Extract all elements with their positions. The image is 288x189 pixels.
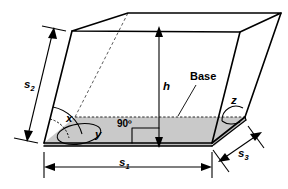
angle-z-label: z xyxy=(230,94,237,106)
angle-x-label: x xyxy=(65,112,73,124)
s1-arrow-right xyxy=(201,163,212,171)
angle-y-label: y xyxy=(94,128,102,140)
s3-arrow-left xyxy=(218,153,230,162)
base-callout: Base xyxy=(178,70,216,116)
s2-tick-bottom xyxy=(14,138,38,143)
hidden-edges xyxy=(75,13,245,117)
s2-label: s2 xyxy=(24,78,35,93)
s1-dimension: s1 xyxy=(44,152,212,178)
s1-arrow-left xyxy=(44,163,55,171)
s3-arrow-right xyxy=(250,132,262,141)
right-angle-label: 90º xyxy=(117,118,132,129)
lateral-edge-back-right xyxy=(245,13,281,117)
hidden-back-left-edge xyxy=(75,13,128,117)
height-label: h xyxy=(163,80,170,92)
s3-label: s3 xyxy=(238,147,249,162)
prism-diagram: h 90º s1 s2 xyxy=(0,0,288,189)
base-leader-line xyxy=(178,85,196,116)
top-face-outline xyxy=(72,13,281,32)
s1-label: s1 xyxy=(119,156,130,171)
base-label: Base xyxy=(190,70,216,82)
s2-dimension-line xyxy=(29,35,52,131)
figure-canvas: h 90º s1 s2 xyxy=(0,0,288,189)
